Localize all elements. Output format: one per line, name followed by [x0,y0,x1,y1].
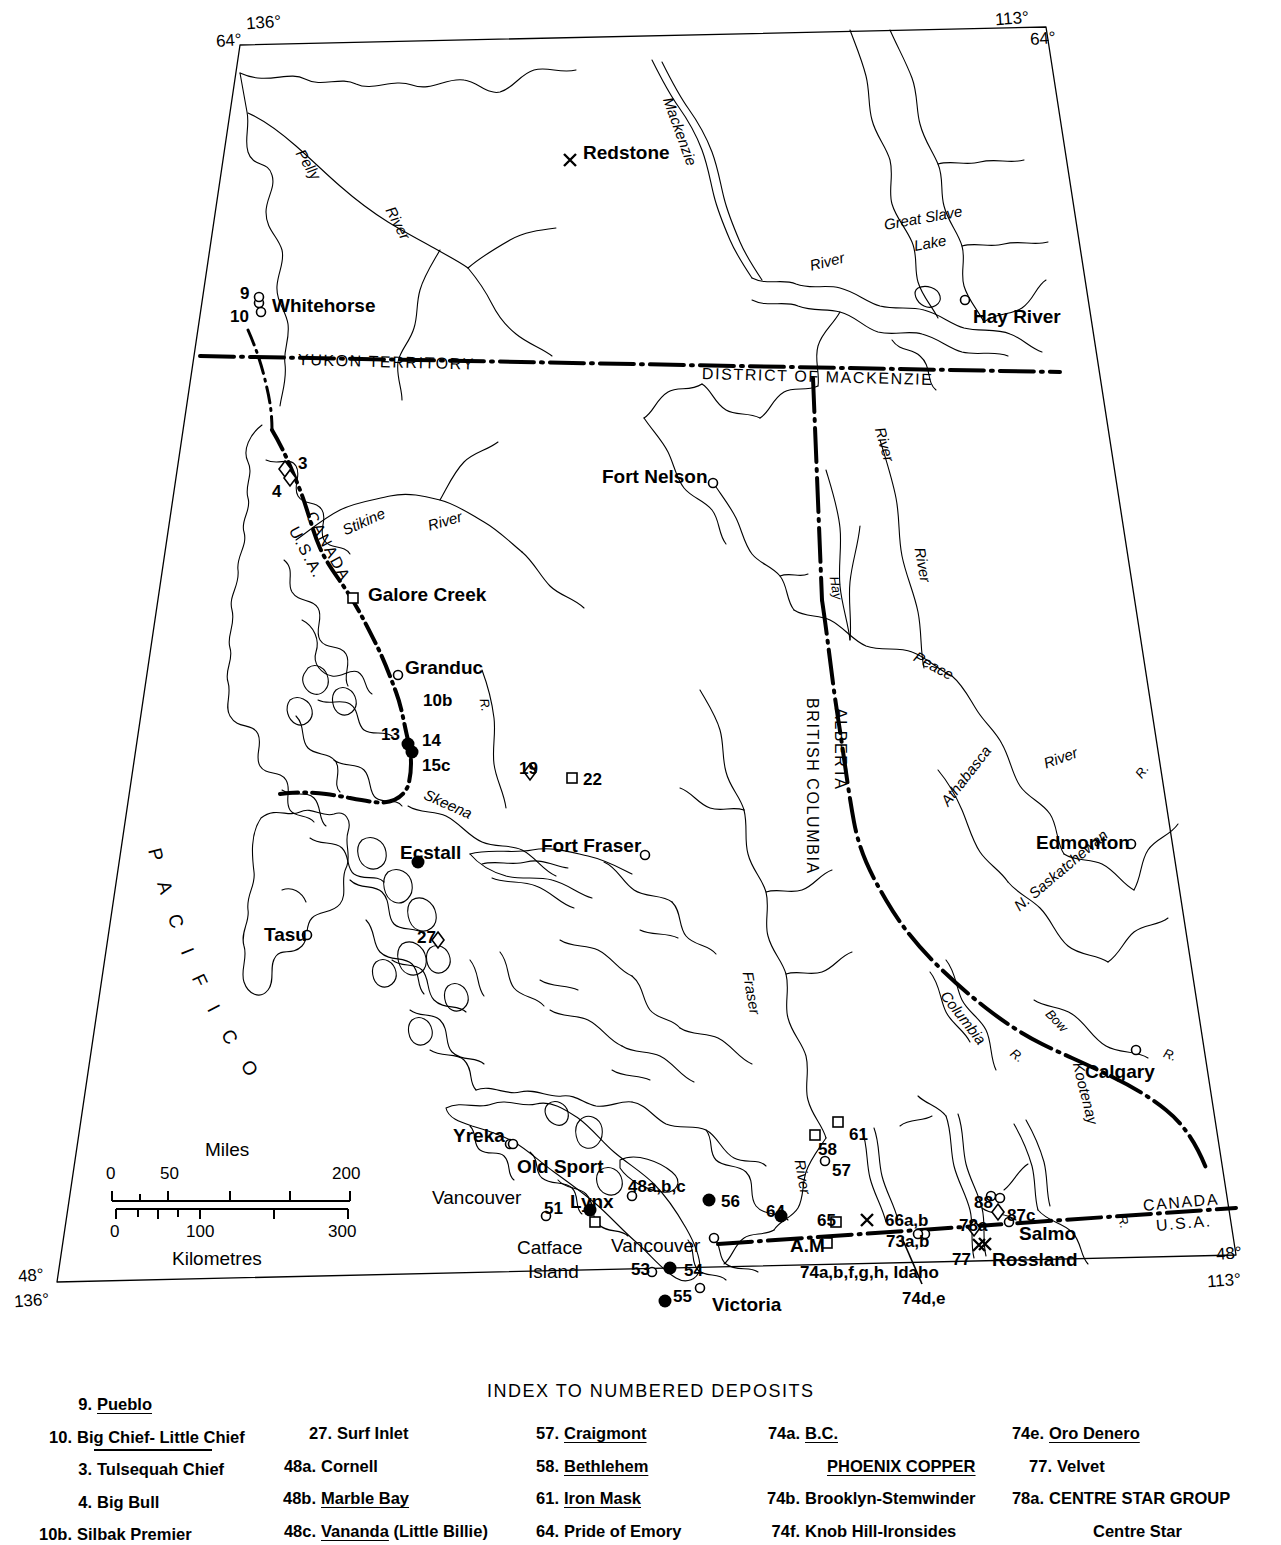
index-entry-name-text: Centre Star [1093,1522,1182,1540]
index-entry-name-text: Tulsequah Chief [97,1460,224,1478]
index-entry[interactable]: 27.Surf Inlet [272,1425,488,1442]
index-column-4: 74a.B.C.PHOENIX COPPER74b.Brooklyn-Stemw… [756,1425,976,1545]
place-label-fort-fraser: Fort Fraser [541,836,641,855]
index-entry[interactable]: PHOENIX COPPER [756,1458,976,1475]
index-entry-number: 74b. [756,1490,800,1507]
index-entry-name-text: Marble Bay [321,1489,409,1507]
place-label-a-m: A.M [790,1236,825,1255]
index-entry-name: Surf Inlet [337,1425,409,1442]
place-marker-granduc [394,671,403,680]
place-label-salmo: Salmo [1019,1224,1076,1243]
index-entry-name-text: B.C. [805,1424,838,1442]
place-label-whitehorse: Whitehorse [272,296,375,315]
index-entry[interactable]: 58.Bethlehem [523,1458,681,1475]
deposit-number-55: 55 [673,1288,692,1305]
region-label-british-columbia-2: BRITISH COLUMBIA [804,698,820,875]
deposit-symbol-15c [406,746,419,759]
index-entry-name-text: Craigmont [564,1424,647,1442]
index-entry[interactable]: 48a.Cornell [272,1458,488,1475]
coord-top-left-lat: 64° [215,31,242,50]
index-entry-name: Velvet [1057,1458,1105,1475]
index-entry-number: 4. [50,1494,92,1511]
index-entry-name: Craigmont [564,1425,647,1442]
deposit-number-66a-b: 66a,b [885,1212,928,1229]
index-entry-name-text: Pueblo [97,1395,152,1413]
scale-kilometres-label: Kilometres [172,1249,262,1268]
index-entry[interactable]: 74a.B.C. [756,1425,976,1442]
place-marker-galore-creek [348,593,358,603]
coord-top-right-lat: 64° [1029,29,1056,48]
index-entry[interactable]: 10b.Silbak Premier [30,1526,245,1543]
deposit-number-14: 14 [422,732,441,749]
deposit-number-51: 51 [544,1200,563,1217]
place-label-vancouver: Vancouver [432,1188,521,1207]
index-entry-name: Centre Star [1093,1523,1182,1540]
index-entry-name-text: PHOENIX COPPER [827,1457,976,1475]
index-entry-name-suffix: (Little Billie) [389,1522,488,1540]
place-label-redstone: Redstone [583,143,670,162]
deposit-number-74a-b-f-g-h-idaho: 74a,b,f,g,h, Idaho [800,1264,939,1281]
deposit-number-15c: 15c [422,757,450,774]
index-entry[interactable]: 48c.Vananda (Little Billie) [272,1523,488,1540]
index-entry-number: 48a. [272,1458,316,1475]
place-label-vancouver: Vancouver [611,1236,700,1255]
index-column-1: 9.Pueblo10.Big Chief- Little Chief3.Tuls… [30,1396,245,1545]
pacific-ocean-svg: P A C I F I C O C E A N [120,810,520,1130]
deposit-number-88: 88 [974,1194,993,1211]
index-entry[interactable]: 74f.Knob Hill-Ironsides [756,1523,976,1540]
deposit-number-65: 65 [817,1212,836,1229]
index-column-2: 27.Surf Inlet48a.Cornell48b.Marble Bay48… [272,1425,488,1545]
index-entry-name-text: Velvet [1057,1457,1105,1475]
place-label-fort-nelson: Fort Nelson [602,467,708,486]
index-entry[interactable]: 9.Pueblo [30,1396,245,1413]
deposit-symbol-unlabeled-3 [996,1194,1005,1203]
deposit-symbol-66a-b [861,1214,873,1226]
index-entry-number: 74e. [1000,1425,1044,1442]
index-entry-name: Oro Denero [1049,1425,1140,1442]
place-marker-hay-river [961,296,970,305]
scale-miles-tick-200: 200 [332,1165,360,1182]
index-entry[interactable]: 74b.Brooklyn-Stemwinder [756,1490,976,1507]
deposit-symbol-55 [659,1295,672,1308]
index-entry[interactable]: 61.Iron Mask [523,1490,681,1507]
deposit-number-64: 64 [766,1203,785,1220]
deposit-number-13: 13 [381,726,400,743]
index-entry[interactable]: 57.Craigmont [523,1425,681,1442]
index-entry[interactable]: 77.Velvet [1000,1458,1230,1475]
place-label-old-sport: Old Sport [517,1157,604,1176]
coord-bottom-left-lat: 48° [17,1266,44,1285]
index-entry-name-text: Vananda [321,1522,389,1540]
index-entry-name: CENTRE STAR GROUP [1049,1490,1230,1507]
index-entry-name: Knob Hill-Ironsides [805,1523,956,1540]
index-entry[interactable]: 48b.Marble Bay [272,1490,488,1507]
deposit-symbol-87c [992,1204,1004,1220]
scale-km-tick-300: 300 [328,1223,356,1240]
deposit-number-22: 22 [583,771,602,788]
index-entry-name-text: Surf Inlet [337,1424,409,1442]
index-entry-name: Big Chief- Little Chief [77,1429,245,1446]
index-entry[interactable]: 74e.Oro Denero [1000,1425,1230,1442]
index-entry-name-text: Big Bull [97,1493,159,1511]
index-entry[interactable]: 64.Pride of Emory [523,1523,681,1540]
index-entry-number: 74f. [756,1523,800,1540]
scale-miles-tick-0: 0 [106,1165,115,1182]
coord-bottom-right-lat: 48° [1215,1244,1242,1263]
index-entry[interactable]: 4.Big Bull [30,1494,245,1511]
index-entry[interactable]: 10.Big Chief- Little Chief [30,1429,245,1446]
index-entry[interactable]: 78a.CENTRE STAR GROUP [1000,1490,1230,1507]
deposit-number-57: 57 [832,1162,851,1179]
coord-top-right-lon: 113° [994,9,1029,28]
index-entry[interactable]: Centre Star [1000,1523,1230,1540]
index-entry[interactable]: 3.Tulsequah Chief [30,1461,245,1478]
deposit-number-9: 9 [240,285,249,302]
deposit-symbol-54 [664,1262,677,1275]
index-entry-name-text: Cornell [321,1457,378,1475]
deposit-symbol-61 [833,1117,843,1127]
deposit-number-3: 3 [298,455,307,472]
deposit-number-53: 53 [631,1261,650,1278]
index-entry-name: Bethlehem [564,1458,648,1475]
place-marker-fort-fraser [641,851,650,860]
index-entry-number: 77. [1008,1458,1052,1475]
